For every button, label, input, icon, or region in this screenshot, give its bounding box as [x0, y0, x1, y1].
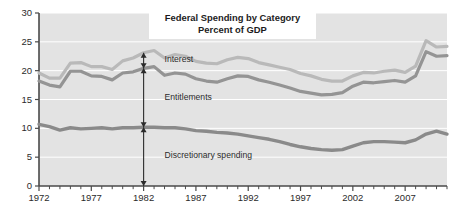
- x-tick-labels: 19721977198219871992199720022007: [28, 192, 415, 203]
- x-axis: [39, 186, 447, 191]
- annotation-labels: InterestEntitlementsDiscretionary spendi…: [165, 54, 253, 160]
- svg-text:2007: 2007: [395, 192, 416, 203]
- svg-text:25: 25: [21, 36, 32, 47]
- svg-text:10: 10: [21, 122, 32, 133]
- annotation-arrows: [141, 53, 147, 186]
- svg-text:1972: 1972: [28, 192, 49, 203]
- chart-figure: 051015202530 197219771982198719921997200…: [0, 0, 469, 217]
- svg-text:1977: 1977: [81, 192, 102, 203]
- svg-text:0: 0: [27, 180, 32, 191]
- y-tick-labels: 051015202530: [21, 7, 32, 191]
- svg-text:30: 30: [21, 7, 32, 18]
- svg-text:2002: 2002: [342, 192, 363, 203]
- svg-text:20: 20: [21, 65, 32, 76]
- svg-text:1992: 1992: [238, 192, 259, 203]
- svg-text:5: 5: [27, 151, 32, 162]
- svg-text:15: 15: [21, 94, 32, 105]
- chart-title-box: Federal Spending by Category Percent of …: [149, 9, 316, 39]
- chart-subtitle: Percent of GDP: [153, 24, 312, 36]
- svg-text:Discretionary spending: Discretionary spending: [165, 150, 253, 160]
- chart-title: Federal Spending by Category: [153, 12, 312, 24]
- svg-text:1982: 1982: [133, 192, 154, 203]
- svg-text:1997: 1997: [290, 192, 311, 203]
- y-axis: [35, 13, 39, 186]
- svg-text:Interest: Interest: [165, 54, 194, 64]
- svg-text:1987: 1987: [185, 192, 206, 203]
- svg-text:Entitlements: Entitlements: [165, 92, 212, 102]
